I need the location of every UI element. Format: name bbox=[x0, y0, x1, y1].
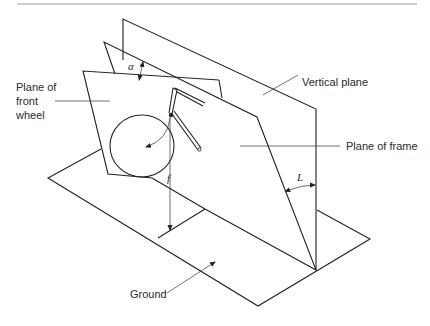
alpha-arrow bbox=[140, 62, 143, 76]
ground-leader bbox=[167, 262, 215, 293]
lean-symbol: L bbox=[296, 171, 303, 183]
trail-symbol: f bbox=[167, 172, 172, 184]
handlebar bbox=[169, 88, 205, 114]
lean-angle-arrow bbox=[289, 185, 315, 190]
front-wheel-plane-label: Plane of front wheel bbox=[15, 81, 59, 121]
wheel-rotation-arrow bbox=[146, 118, 170, 147]
frame-plane bbox=[104, 42, 316, 270]
ground-label: Ground bbox=[130, 288, 167, 300]
alpha-symbol: α bbox=[128, 60, 134, 72]
bicycle-geometry-diagram: f α L Plane of front wheel Vertical plan… bbox=[0, 0, 430, 326]
ground-plane bbox=[48, 149, 370, 306]
front-wheel bbox=[110, 115, 174, 177]
frame-plane-label: Plane of frame bbox=[346, 140, 418, 152]
ground-trace-line bbox=[158, 209, 205, 238]
front-wheel-plane bbox=[83, 71, 222, 178]
vertical-plane-label: Vertical plane bbox=[302, 76, 368, 88]
